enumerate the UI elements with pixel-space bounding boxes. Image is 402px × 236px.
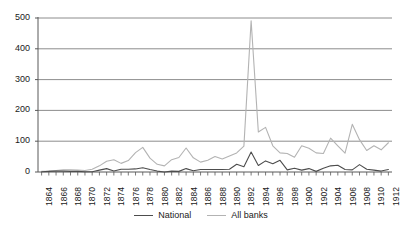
- x-axis-tick-label: 1912: [392, 187, 401, 206]
- x-axis-tick-label: 1898: [291, 187, 300, 206]
- x-axis-tick-label: 1896: [276, 187, 285, 206]
- x-axis-tick-label: 1906: [349, 187, 358, 206]
- x-axis-tick-label: 1872: [103, 187, 112, 206]
- x-axis-tick-label: 1890: [233, 187, 242, 206]
- x-axis-tick-label: 1902: [320, 187, 329, 206]
- gridlines: [38, 18, 392, 141]
- x-axis-tick-label: 1868: [74, 187, 83, 206]
- x-axis-tick-label: 1884: [190, 187, 199, 206]
- x-axis-tick-label: 1880: [161, 187, 170, 206]
- series-line-all-banks: [42, 21, 389, 172]
- legend-swatch-all-banks-icon: [207, 215, 226, 216]
- y-axis-tick-label: 100: [4, 136, 30, 145]
- x-axis-tick-label: 1870: [88, 187, 97, 206]
- x-axis-tick-label: 1904: [334, 187, 343, 206]
- x-axis-tick-label: 1892: [247, 187, 256, 206]
- x-axis-tick-label: 1878: [146, 187, 155, 206]
- legend-swatch-national-icon: [134, 215, 153, 216]
- x-axis-tick-label: 1908: [363, 187, 372, 206]
- legend-label-national: National: [158, 210, 191, 220]
- x-axis-tick-label: 1882: [175, 187, 184, 206]
- legend-item-national: National: [134, 210, 191, 220]
- bank-failures-line-chart: 0100200300400500 18641866186818701872187…: [0, 0, 402, 236]
- y-axis-tick-label: 200: [4, 105, 30, 114]
- chart-legend: National All banks: [0, 210, 402, 220]
- x-axis-tick-label: 1888: [219, 187, 228, 206]
- x-axis-tick-label: 1874: [117, 187, 126, 206]
- x-axis-tick-label: 1900: [305, 187, 314, 206]
- y-axis-tick-label: 300: [4, 75, 30, 84]
- x-axis-tick-label: 1864: [45, 187, 54, 206]
- y-axis-tick-label: 500: [4, 13, 30, 22]
- x-axis-tick-label: 1866: [60, 187, 69, 206]
- legend-label-all-banks: All banks: [231, 210, 268, 220]
- x-axis-labels: 1864186618681870187218741876187818801882…: [38, 176, 393, 208]
- x-axis-tick-label: 1910: [377, 187, 386, 206]
- legend-item-all-banks: All banks: [207, 210, 268, 220]
- y-axis-tick-label: 400: [4, 44, 30, 53]
- x-axis-tick-label: 1876: [132, 187, 141, 206]
- y-axis-tick-label: 0: [4, 167, 30, 176]
- x-axis-tick-label: 1894: [262, 187, 271, 206]
- x-axis-tick-label: 1886: [204, 187, 213, 206]
- x-axis-ticks: [42, 172, 389, 176]
